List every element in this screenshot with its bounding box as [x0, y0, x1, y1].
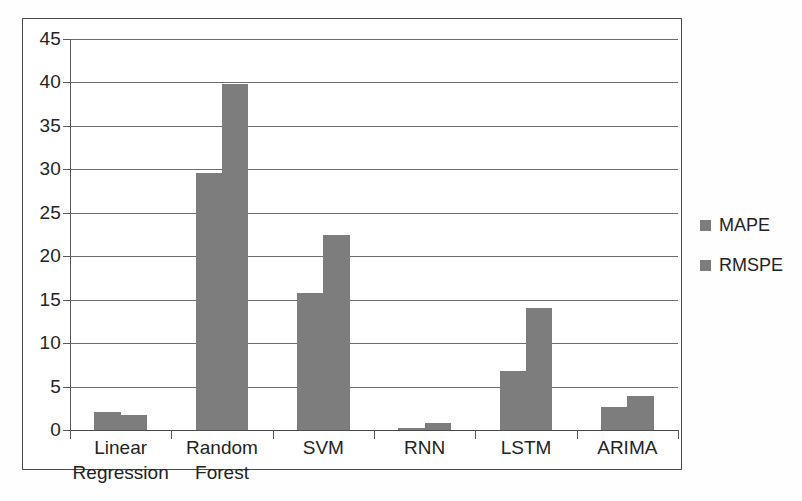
y-tick-label: 15: [39, 289, 61, 311]
category-label: RandomForest: [171, 435, 272, 485]
gridline: [70, 213, 678, 214]
bar-group: [500, 39, 553, 430]
bar: [601, 407, 627, 430]
bar: [526, 308, 552, 431]
plot-area: [70, 39, 678, 430]
category-label-line: SVM: [273, 435, 374, 460]
chart-screenshot: 051015202530354045 LinearRegressionRando…: [0, 0, 802, 501]
legend-label: RMSPE: [719, 255, 783, 276]
legend-swatch-icon: [700, 260, 711, 271]
y-tick-mark: [63, 343, 70, 344]
y-tick-mark: [63, 430, 70, 431]
bar: [297, 293, 323, 430]
y-tick-mark: [63, 39, 70, 40]
bar: [500, 371, 526, 430]
y-tick-mark: [63, 256, 70, 257]
bar: [196, 173, 222, 430]
bar: [222, 84, 248, 430]
bar: [94, 412, 120, 430]
y-tick-label: 5: [50, 376, 61, 398]
y-tick-mark: [63, 126, 70, 127]
category-label: LSTM: [475, 435, 576, 460]
figure-frame: 051015202530354045 LinearRegressionRando…: [22, 18, 682, 470]
legend-item[interactable]: MAPE: [700, 215, 796, 236]
y-tick-mark: [63, 213, 70, 214]
bar: [121, 415, 147, 430]
bar: [627, 396, 653, 430]
bar-group: [94, 39, 147, 430]
legend-item[interactable]: RMSPE: [700, 255, 796, 276]
bar-group: [398, 39, 451, 430]
category-label-line: Regression: [70, 460, 171, 485]
gridline: [70, 300, 678, 301]
bar-group: [601, 39, 654, 430]
gridline: [70, 169, 678, 170]
y-tick-label: 20: [39, 245, 61, 267]
legend-swatch-icon: [700, 220, 711, 231]
y-tick-label: 35: [39, 115, 61, 137]
gridline: [70, 387, 678, 388]
y-tick-mark: [63, 387, 70, 388]
category-label: ARIMA: [577, 435, 678, 460]
bar: [398, 428, 424, 430]
gridline: [70, 126, 678, 127]
y-axis-line: [70, 39, 71, 430]
bar-group: [297, 39, 350, 430]
bar-group: [196, 39, 249, 430]
chart-legend: MAPERMSPE: [700, 215, 796, 295]
category-label: LinearRegression: [70, 435, 171, 485]
category-label-line: RNN: [374, 435, 475, 460]
y-tick-mark: [63, 169, 70, 170]
y-tick-label: 25: [39, 202, 61, 224]
y-tick-mark: [63, 82, 70, 83]
bar: [323, 235, 349, 431]
category-label-line: Forest: [171, 460, 272, 485]
y-tick-label: 45: [39, 28, 61, 50]
y-tick-mark: [63, 300, 70, 301]
category-label-line: LSTM: [475, 435, 576, 460]
legend-label: MAPE: [719, 215, 770, 236]
category-label-line: Linear: [70, 435, 171, 460]
category-label-line: Random: [171, 435, 272, 460]
y-tick-label: 0: [50, 419, 61, 441]
category-label: RNN: [374, 435, 475, 460]
gridline: [70, 39, 678, 40]
y-tick-label: 40: [39, 71, 61, 93]
y-tick-label: 30: [39, 158, 61, 180]
gridline: [70, 343, 678, 344]
x-tick-mark: [678, 430, 679, 439]
y-tick-label: 10: [39, 332, 61, 354]
category-label: SVM: [273, 435, 374, 460]
category-label-line: ARIMA: [577, 435, 678, 460]
bar: [425, 423, 451, 430]
gridline: [70, 256, 678, 257]
x-axis-category-labels: LinearRegressionRandomForestSVMRNNLSTMAR…: [70, 435, 678, 487]
gridline: [70, 82, 678, 83]
y-axis-tick-labels: 051015202530354045: [23, 39, 61, 430]
